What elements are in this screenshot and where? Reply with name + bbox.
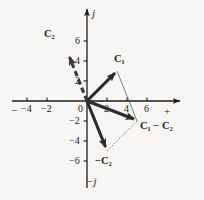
axis-label-plus: + — [164, 106, 170, 117]
vector-diagram-figure: −4 −2 0 2 4 6 6 4 2 −2 −4 −6 j −j + − C₂… — [0, 0, 204, 200]
y-tick-label-neg4: −4 — [69, 136, 80, 146]
axis-label-minus: − — [11, 105, 17, 116]
axis-horizontal — [12, 98, 180, 102]
vector-label-neg-c2: −C₂ — [95, 156, 112, 167]
x-tick-label-zero: 0 — [78, 104, 83, 114]
x-tick-label-neg4: −4 — [21, 104, 32, 114]
construction-line-negc2-to-sum — [107, 121, 137, 151]
y-tick-label-2: 2 — [75, 76, 80, 86]
y-tick-label-4: 4 — [75, 56, 80, 66]
vector-label-c1-minus-c2: C₁ − C₂ — [140, 121, 173, 132]
axis-label-j: j — [92, 8, 95, 19]
diagram-canvas — [0, 0, 204, 200]
vector-label-c1: C₁ — [114, 54, 125, 65]
vector-c1 — [87, 73, 115, 101]
x-tick-label-neg2: −2 — [41, 104, 52, 114]
x-tick-label-2: 2 — [104, 104, 109, 114]
y-tick-label-neg2: −2 — [69, 116, 80, 126]
y-tick-label-6: 6 — [75, 36, 80, 46]
vector-label-c2: C₂ — [44, 29, 55, 40]
x-tick-label-6: 6 — [144, 104, 149, 114]
y-tick-label-neg6: −6 — [69, 156, 80, 166]
x-tick-label-4: 4 — [124, 104, 129, 114]
axis-label-neg-j: −j — [86, 176, 96, 187]
